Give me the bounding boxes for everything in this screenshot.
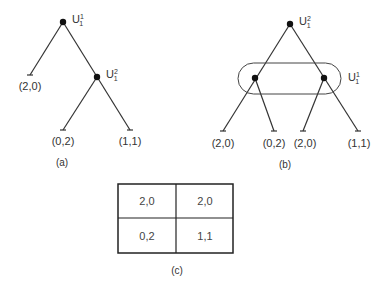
payoff-leaf-a-2: (0,2) <box>52 135 75 147</box>
payoff-matrix-c: 2,0 2,0 0,2 1,1 (c) <box>118 184 233 276</box>
matrix-cell-2-2: 1,1 <box>197 230 212 242</box>
matrix-cell-1-2: 2,0 <box>197 195 212 207</box>
decision-node-root-b <box>287 21 293 27</box>
decision-node-inner-a <box>94 74 100 80</box>
payoff-leaf-a-1: (2,0) <box>19 80 42 92</box>
payoff-leaf-b-2: (0,2) <box>263 137 286 149</box>
caption-b: (b) <box>279 159 291 170</box>
decision-node-root-a <box>60 19 66 25</box>
node-label-root-b: U21 <box>299 15 311 29</box>
caption-c: (c) <box>171 265 183 276</box>
tree-b: U21 U11 (2,0) (0,2) (2,0) (1,1) (b) <box>212 15 371 170</box>
decision-node-right-b <box>321 75 327 81</box>
tree-a: U11 U21 (2,0) (0,2) (1,1) (a) <box>19 13 142 168</box>
payoff-leaf-b-4: (1,1) <box>348 137 371 149</box>
node-label-root-a: U11 <box>72 13 84 27</box>
matrix-cell-1-1: 2,0 <box>139 195 154 207</box>
decision-node-left-b <box>252 75 258 81</box>
payoff-leaf-a-3: (1,1) <box>119 135 142 147</box>
game-trees-figure: U11 U21 (2,0) (0,2) (1,1) (a) U21 U11 (2… <box>0 0 387 288</box>
caption-a: (a) <box>56 157 68 168</box>
payoff-leaf-b-1: (2,0) <box>212 137 235 149</box>
info-set-label-b: U11 <box>348 71 360 85</box>
node-label-inner-a: U21 <box>106 68 118 82</box>
matrix-cell-2-1: 0,2 <box>139 230 154 242</box>
payoff-leaf-b-3: (2,0) <box>294 137 317 149</box>
